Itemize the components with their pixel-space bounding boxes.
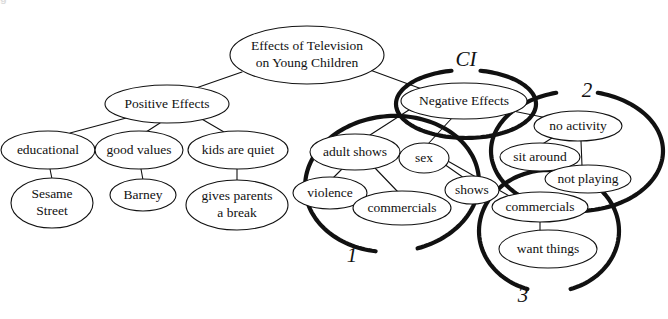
node-notplaying[interactable]: not playing — [545, 165, 631, 193]
grouping-label-group-2: 2 — [582, 78, 593, 102]
node-label-wantthings: want things — [517, 241, 580, 256]
node-negative[interactable]: Negative Effects — [401, 83, 527, 119]
node-goodvalues[interactable]: good values — [95, 131, 183, 169]
node-label-barney: Barney — [124, 187, 163, 202]
node-label-sitaround: sit around — [513, 149, 567, 164]
node-label-root-line2: on Young Children — [256, 55, 359, 70]
node-label-givesparents-line2: a break — [217, 205, 257, 220]
edge-positive-to-educational — [70, 117, 130, 133]
edge-positive-to-goodvalues — [146, 123, 160, 132]
node-givesparents[interactable]: gives parentsa break — [186, 180, 288, 230]
concept-map-canvas: g Effects of Televisionon Young Children… — [0, 0, 668, 319]
edge-sex-to-shows — [444, 164, 464, 178]
node-label-adultshows: adult shows — [323, 144, 387, 159]
edge-goodvalues-to-barney — [141, 169, 143, 180]
edge-positive-to-kidsquiet — [200, 118, 224, 132]
node-sex[interactable]: sex — [399, 143, 449, 173]
node-commercials2[interactable]: commercials — [492, 192, 588, 222]
nodes-layer: Effects of Televisionon Young ChildrenPo… — [1, 26, 631, 268]
node-label-goodvalues: good values — [107, 142, 172, 157]
edge-adultshows-to-commercials1 — [375, 168, 398, 192]
node-label-violence: violence — [307, 185, 353, 200]
node-positive[interactable]: Positive Effects — [105, 85, 229, 123]
node-kidsquiet[interactable]: kids are quiet — [188, 131, 288, 169]
node-wantthings[interactable]: want things — [499, 230, 597, 268]
node-adultshows[interactable]: adult shows — [310, 134, 400, 170]
node-commercials1[interactable]: commercials — [353, 191, 451, 225]
node-sesame[interactable]: SesameStreet — [11, 178, 93, 228]
grouping-label-group-ci: CI — [456, 47, 478, 71]
grouping-label-group-3: 3 — [517, 283, 529, 307]
node-label-noactivity: no activity — [549, 118, 607, 133]
node-label-sesame-line1: Sesame — [31, 186, 72, 201]
node-label-notplaying: not playing — [557, 171, 618, 186]
node-noactivity[interactable]: no activity — [534, 111, 622, 141]
node-educational[interactable]: educational — [1, 131, 95, 169]
node-label-negative: Negative Effects — [419, 93, 509, 108]
node-label-commercials1: commercials — [368, 200, 437, 215]
node-label-givesparents-line1: gives parents — [202, 188, 273, 203]
node-label-kidsquiet: kids are quiet — [202, 142, 275, 157]
node-label-shows: shows — [455, 182, 489, 197]
node-label-root-line1: Effects of Television — [251, 38, 363, 53]
node-label-educational: educational — [17, 142, 79, 157]
node-label-sex: sex — [415, 150, 433, 165]
concept-map-svg: Effects of Televisionon Young ChildrenPo… — [0, 0, 668, 319]
node-shows[interactable]: shows — [445, 176, 499, 204]
node-label-sesame-line2: Street — [36, 203, 68, 218]
node-barney[interactable]: Barney — [110, 179, 176, 211]
node-label-positive: Positive Effects — [125, 96, 210, 111]
edge-noactivity-to-notplaying — [581, 141, 582, 166]
node-label-commercials2: commercials — [506, 199, 575, 214]
node-root[interactable]: Effects of Televisionon Young Children — [230, 26, 384, 84]
edge-root-to-positive — [196, 72, 242, 88]
grouping-label-group-1: 1 — [347, 243, 358, 267]
